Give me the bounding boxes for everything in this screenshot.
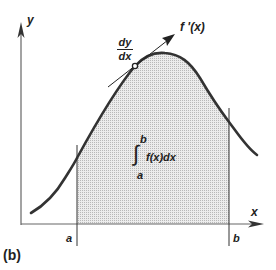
integral-symbol: ∫ [133,143,139,165]
tangent-point [132,63,137,68]
derivative-numerator: dy [119,36,132,48]
tangent-arrow-icon [162,34,175,46]
integral-shaded-area [77,53,229,224]
calculus-diagram: y x f '(x) dy dx b ∫ f(x)dx a a b (b) [0,0,276,270]
derivative-denominator: dx [119,50,132,62]
x-axis-label: x [251,206,258,218]
y-axis-label: y [27,14,34,26]
tangent-label: f '(x) [180,21,205,33]
diagram-canvas [0,0,276,270]
bound-a-label: a [66,233,72,244]
derivative-fraction: dy dx [117,37,133,62]
integral-integrand: f(x)dx [146,152,176,163]
panel-label: (b) [3,248,21,262]
bound-b-label: b [233,233,240,244]
integral-upper-limit: b [140,134,147,145]
integral-lower-limit: a [137,170,143,181]
